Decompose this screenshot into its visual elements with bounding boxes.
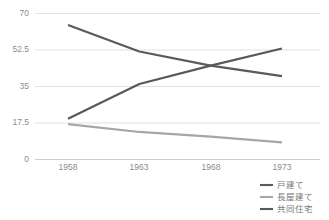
y-tick-label-52-5: 52.5	[12, 44, 29, 54]
y-tick-label-35: 35	[20, 81, 30, 91]
chart-canvas: 70 52.5 35 17.5 0 1958 1963 1968 1973 戸建…	[0, 0, 329, 220]
x-tick-label-1958: 1958	[59, 162, 78, 172]
x-tick-label-1963: 1963	[130, 162, 149, 172]
legend-label-detached: 戸建て	[277, 180, 304, 190]
legend-label-apartment: 共同住宅	[277, 204, 313, 214]
line-chart: 70 52.5 35 17.5 0 1958 1963 1968 1973 戸建…	[0, 0, 329, 220]
y-tick-label-0: 0	[24, 154, 29, 164]
y-tick-label-70: 70	[20, 8, 30, 18]
x-tick-label-1968: 1968	[202, 162, 221, 172]
y-tick-label-17-5: 17.5	[12, 117, 29, 127]
x-tick-label-1973: 1973	[273, 162, 292, 172]
legend-label-rowhouse: 長屋建て	[277, 192, 313, 202]
